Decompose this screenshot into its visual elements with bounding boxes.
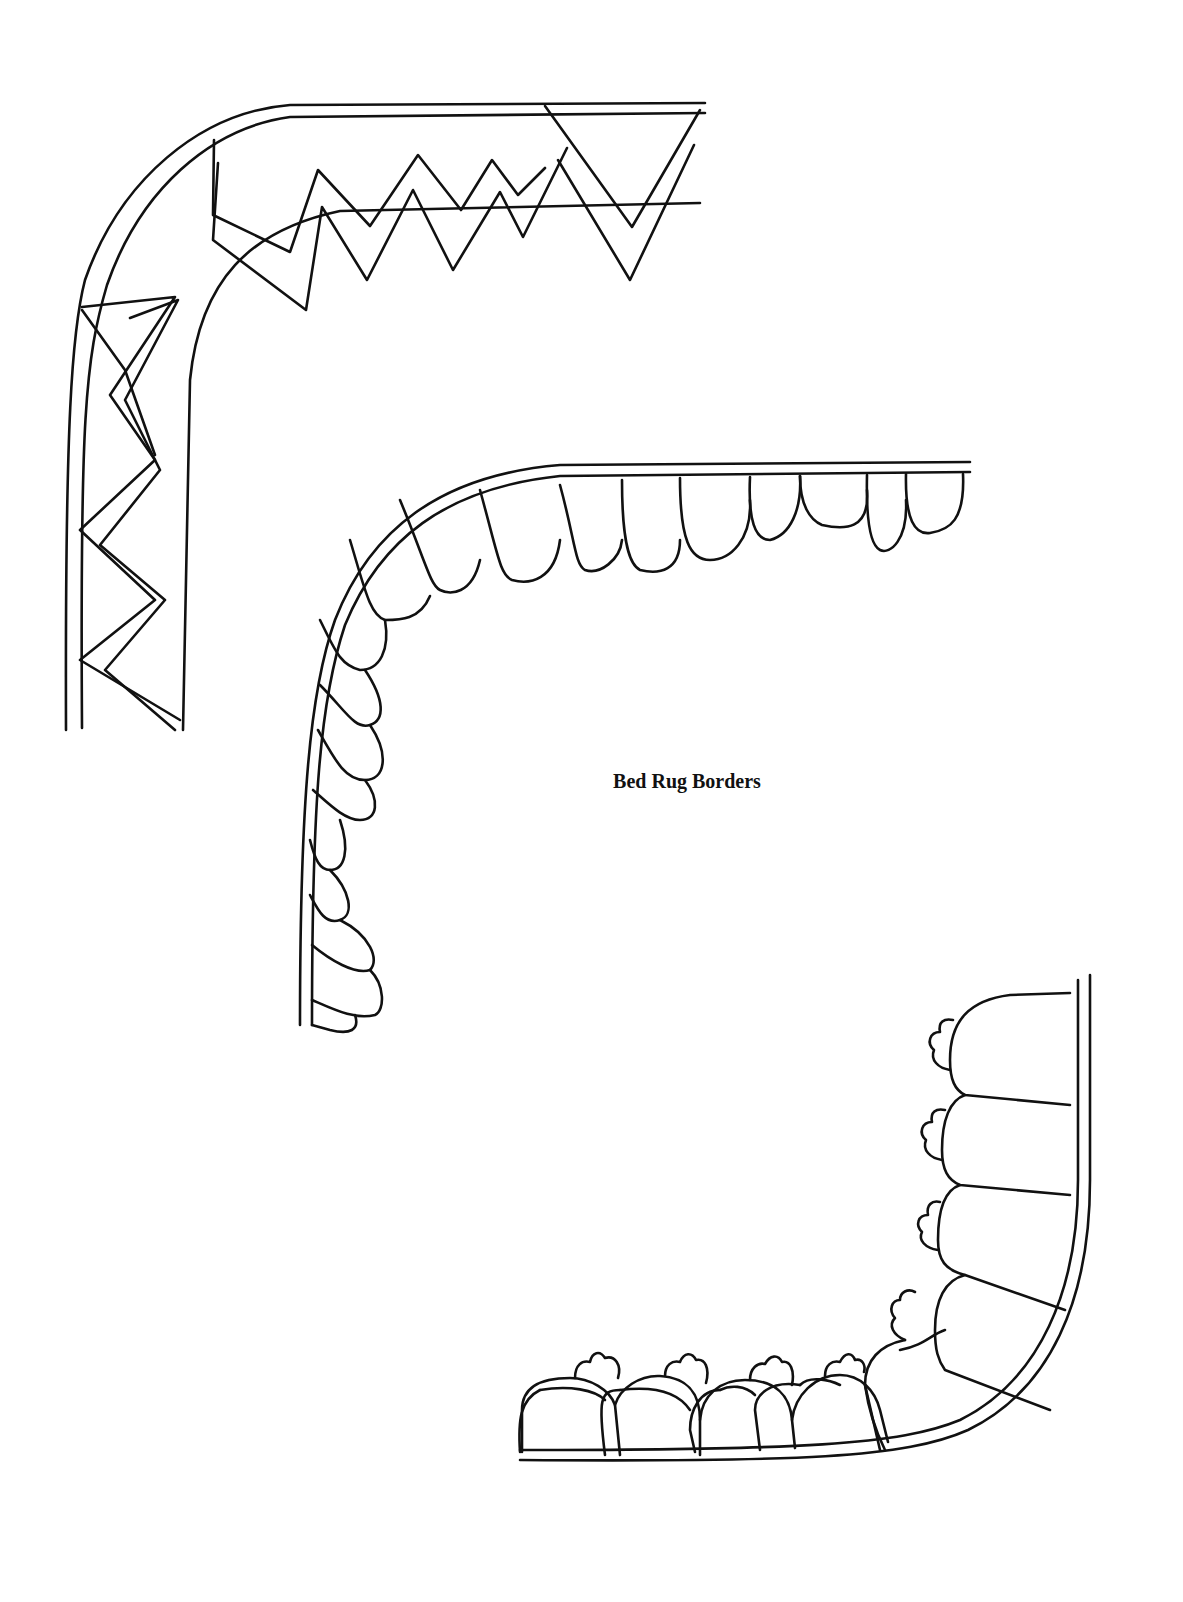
scallop-border	[300, 462, 970, 1032]
drawing-canvas	[0, 0, 1183, 1602]
page-title: Bed Rug Borders	[552, 770, 822, 793]
lobed-border	[519, 975, 1090, 1460]
